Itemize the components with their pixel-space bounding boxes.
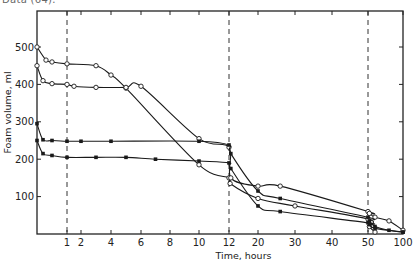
data-point-open [94,63,98,67]
data-point-open [197,163,201,167]
data-point-open [373,230,377,234]
data-point-filled [197,139,201,143]
x-tick-label: 100 [393,237,412,248]
data-point-open [229,176,233,180]
data-point-filled [50,139,54,143]
data-point-filled [373,227,377,231]
data-point-open [256,184,260,188]
series-line [37,141,403,233]
x-axis-title: Time, hours [215,250,272,261]
x-tick-label: 4 [108,237,114,248]
data-point-open [65,82,69,86]
y-axis-title: Foam volume, ml [2,71,13,153]
data-point-filled [229,167,233,171]
series-line [37,47,375,232]
data-point-filled [50,154,54,158]
data-point-filled [227,161,231,165]
series-line [37,66,403,231]
series-line [37,124,403,232]
x-tick-label: 12 [223,237,236,248]
data-point-open [387,219,391,223]
data-point-open [50,60,54,64]
data-point-open [228,181,232,185]
data-point-open [256,196,260,200]
data-point-filled [229,152,233,156]
y-tick-label: 300 [15,116,34,127]
data-point-filled [65,139,69,143]
data-point-filled [35,122,39,126]
data-point-open [44,58,48,62]
data-point-filled [35,139,39,143]
data-point-open [35,63,39,67]
foam-volume-chart: 12468101220304050100100200300400500Time,… [0,0,414,262]
data-point-open [50,81,54,85]
x-tick-label: 30 [289,237,302,248]
x-tick-label: 1 [64,237,70,248]
data-point-filled [94,156,98,160]
data-point-open [35,45,39,49]
x-tick-label: 20 [252,237,265,248]
data-point-filled [79,139,83,143]
x-tick-label: 10 [193,237,206,248]
data-point-open [278,184,282,188]
data-point-filled [368,223,372,227]
data-point-filled [401,230,405,234]
data-point-open [367,211,371,215]
data-point-filled [124,156,128,160]
y-tick-label: 100 [15,191,34,202]
data-point-filled [154,157,158,161]
data-point-open [41,78,45,82]
x-tick-label: 50 [362,237,375,248]
data-point-filled [227,143,231,147]
data-point-filled [278,197,282,201]
x-tick-label: 40 [326,237,339,248]
data-point-open [72,84,76,88]
data-point-open [65,62,69,66]
y-tick-label: 200 [15,154,34,165]
plot-frame [37,11,403,234]
data-point-filled [256,204,260,208]
data-point-filled [278,210,282,214]
data-point-open [139,84,143,88]
data-point-filled [41,152,45,156]
data-point-open [124,85,128,89]
data-point-filled [65,156,69,160]
y-tick-label: 400 [15,79,34,90]
x-tick-label: 6 [138,237,144,248]
data-point-filled [366,215,370,219]
data-point-filled [109,139,113,143]
data-point-open [109,73,113,77]
x-tick-label: 2 [78,237,84,248]
data-point-filled [41,138,45,142]
x-tick-label: 8 [167,237,173,248]
data-point-open [94,85,98,89]
y-tick-label: 500 [15,42,34,53]
data-point-filled [197,159,201,163]
data-point-open [293,204,297,208]
data-point-filled [256,189,260,193]
